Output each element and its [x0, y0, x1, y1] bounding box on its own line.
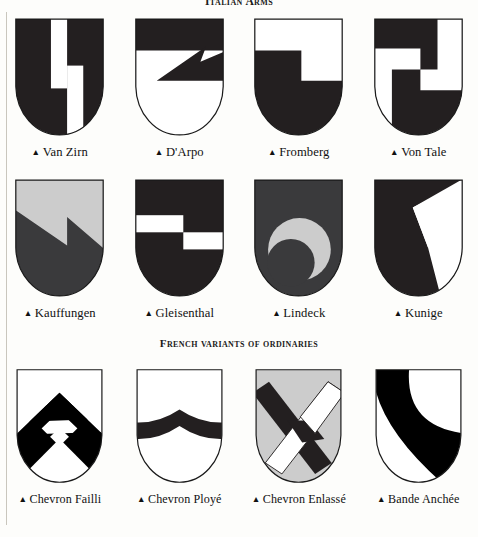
shield-lindeck — [251, 177, 346, 299]
shield-caption: ▲Van Zirn — [32, 145, 88, 160]
shield-kunige — [371, 177, 466, 299]
caption-text: Fromberg — [279, 145, 329, 159]
caption-text: D'Arpo — [166, 145, 204, 159]
caption-text: Kunige — [405, 306, 443, 320]
shield-kauffungen — [12, 177, 107, 299]
shield-cell-gleisenthal[interactable]: ▲Gleisenthal — [120, 177, 240, 321]
shield-cell-chevron-failli[interactable]: ▲Chevron Failli — [0, 367, 120, 507]
shield-chevron-enlasse — [251, 367, 346, 485]
heraldry-plate: Italian Arms French variants of ordinari… — [0, 0, 478, 537]
shield-caption: ▲D'Arpo — [155, 145, 204, 160]
shield-cell-fromberg[interactable]: ▲Fromberg — [239, 16, 359, 160]
shield-caption: ▲Gleisenthal — [144, 306, 214, 321]
shield-cell-darpo[interactable]: ▲D'Arpo — [120, 16, 240, 160]
shield-caption: ▲Kunige — [394, 306, 443, 321]
caption-text: Kauffungen — [35, 306, 96, 320]
shield-cell-kauffungen[interactable]: ▲Kauffungen — [0, 177, 120, 321]
shield-van-zirn — [12, 16, 107, 138]
triangle-bullet-icon: ▲ — [252, 494, 261, 504]
shield-cell-lindeck[interactable]: ▲Lindeck — [239, 177, 359, 321]
caption-text: Bande Anchée — [388, 492, 459, 506]
caption-text: Gleisenthal — [156, 306, 214, 320]
section-title-italian-arms: Italian Arms — [0, 0, 478, 7]
triangle-bullet-icon: ▲ — [272, 308, 281, 318]
shield-bande-anchee — [371, 367, 466, 485]
shield-caption: ▲Bande Anchée — [377, 492, 460, 507]
triangle-bullet-icon: ▲ — [137, 494, 146, 504]
shield-chevron-ploye — [132, 367, 227, 485]
triangle-bullet-icon: ▲ — [155, 147, 164, 157]
shield-caption: ▲Chevron Ployé — [137, 492, 222, 507]
shield-cell-chevron-ploye[interactable]: ▲Chevron Ployé — [120, 367, 240, 507]
section-title-french-variants: French variants of ordinaries — [0, 337, 478, 349]
shield-cell-chevron-enlasse[interactable]: ▲Chevron Enlassé — [239, 367, 359, 507]
shield-caption: ▲Chevron Failli — [18, 492, 101, 507]
shield-darpo — [132, 16, 227, 138]
shield-row-1: ▲Van Zirn ▲D'Arpo — [0, 16, 478, 160]
shield-cell-van-zirn[interactable]: ▲Van Zirn — [0, 16, 120, 160]
shield-caption: ▲Von Tale — [390, 145, 446, 160]
triangle-bullet-icon: ▲ — [24, 308, 33, 318]
shield-caption: ▲Chevron Enlassé — [252, 492, 346, 507]
caption-text: Van Zirn — [43, 145, 88, 159]
triangle-bullet-icon: ▲ — [377, 494, 386, 504]
triangle-bullet-icon: ▲ — [144, 308, 153, 318]
triangle-bullet-icon: ▲ — [18, 494, 27, 504]
shield-gleisenthal — [132, 177, 227, 299]
shield-row-3: ▲Chevron Failli ▲Chevron Ployé — [0, 367, 478, 507]
shield-caption: ▲Kauffungen — [24, 306, 96, 321]
shield-caption: ▲Lindeck — [272, 306, 325, 321]
shield-cell-kunige[interactable]: ▲Kunige — [359, 177, 478, 321]
triangle-bullet-icon: ▲ — [268, 147, 277, 157]
shield-chevron-failli — [12, 367, 107, 485]
caption-text: Chevron Failli — [30, 492, 102, 506]
shield-cell-von-tale[interactable]: ▲Von Tale — [359, 16, 478, 160]
shield-fromberg — [251, 16, 346, 138]
caption-text: Chevron Ployé — [148, 492, 222, 506]
caption-text: Lindeck — [283, 306, 325, 320]
shield-row-2: ▲Kauffungen ▲Gleisenthal — [0, 177, 478, 321]
shield-von-tale — [371, 16, 466, 138]
triangle-bullet-icon: ▲ — [390, 147, 399, 157]
triangle-bullet-icon: ▲ — [32, 147, 41, 157]
shield-cell-bande-anchee[interactable]: ▲Bande Anchée — [359, 367, 478, 507]
caption-text: Chevron Enlassé — [263, 492, 346, 506]
shield-caption: ▲Fromberg — [268, 145, 329, 160]
caption-text: Von Tale — [401, 145, 446, 159]
triangle-bullet-icon: ▲ — [394, 308, 403, 318]
